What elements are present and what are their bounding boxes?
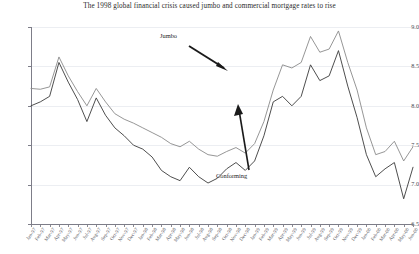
conforming-annotation-label: Conforming	[216, 172, 247, 179]
conforming-annotation-arrow	[234, 104, 249, 170]
jumbo-series-line	[31, 31, 413, 161]
jumbo-annotation-arrow	[189, 46, 228, 71]
series-plot-area	[0, 0, 419, 254]
chart-container: The 1998 global financial crisis caused …	[0, 0, 419, 254]
jumbo-annotation-label: Jumbo	[160, 32, 177, 39]
